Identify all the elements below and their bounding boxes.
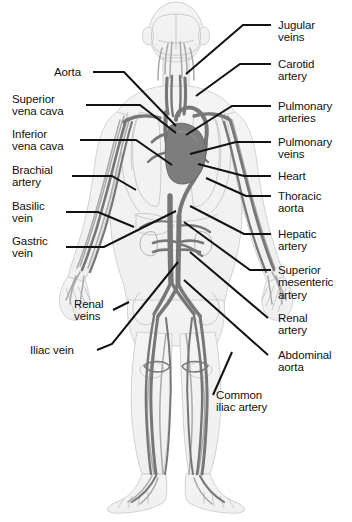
label-pulmonary-arteries: Pulmonary arteries bbox=[278, 100, 332, 125]
inferior-vena-cava-vessel bbox=[170, 196, 171, 282]
label-basilic-vein: Basilic vein bbox=[12, 200, 45, 225]
label-abdominal-aorta: Abdominal aorta bbox=[278, 349, 331, 374]
label-renal-veins: Renal veins bbox=[74, 298, 104, 323]
label-jugular-veins: Jugular veins bbox=[278, 19, 315, 44]
label-pulmonary-veins: Pulmonary veins bbox=[278, 136, 332, 161]
label-gastric-vein: Gastric vein bbox=[12, 235, 48, 260]
label-thoracic-aorta: Thoracic aorta bbox=[278, 190, 321, 215]
circulatory-system-figure: Aorta Superior vena cava Inferior vena c… bbox=[0, 0, 352, 522]
label-hepatic-artery: Hepatic artery bbox=[278, 228, 316, 253]
leader-renal-veins bbox=[113, 302, 129, 310]
label-common-iliac-artery: Common iliac artery bbox=[216, 389, 267, 414]
label-brachial-artery: Brachial artery bbox=[12, 164, 53, 189]
label-carotid-artery: Carotid artery bbox=[278, 58, 314, 83]
label-superior-vena-cava: Superior vena cava bbox=[12, 93, 64, 118]
label-heart: Heart bbox=[278, 170, 306, 182]
left-carotid bbox=[166, 78, 168, 114]
label-renal-artery: Renal artery bbox=[278, 312, 308, 337]
label-iliac-vein: Iliac vein bbox=[30, 344, 74, 356]
label-aorta: Aorta bbox=[54, 66, 81, 78]
label-inferior-vena-cava: Inferior vena cava bbox=[12, 128, 64, 153]
label-superior-mesenteric-artery: Superior mesenteric artery bbox=[278, 264, 333, 301]
